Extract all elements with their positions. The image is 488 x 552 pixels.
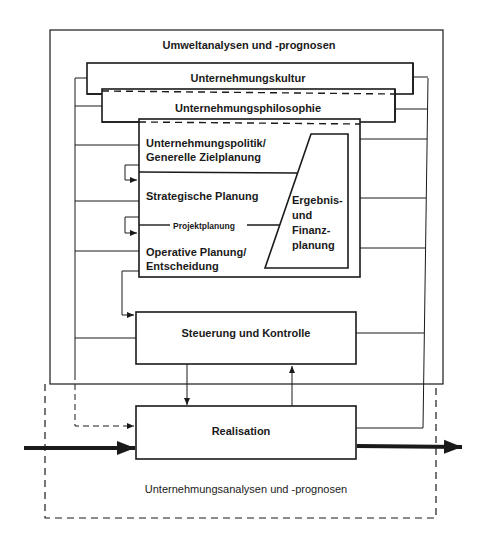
control-label: Steuerung und Kontrolle	[182, 327, 311, 339]
finance-label-3: Finanz-	[292, 224, 331, 236]
operative-label-2: Entscheidung	[146, 260, 219, 272]
right-rail	[423, 78, 428, 428]
policy-divider	[139, 172, 298, 173]
project-label: Projektplanung	[173, 221, 235, 231]
culture-label: Unternehmungskultur	[191, 72, 307, 84]
strategic-label: Strategische Planung	[146, 190, 258, 202]
operative-label-1: Operative Planung/	[146, 246, 246, 258]
output-arrow	[357, 446, 462, 447]
finance-label-2: und	[292, 209, 312, 221]
policy-label-1: Unternehmungspolitik/	[146, 137, 266, 149]
left-rail-dashed	[75, 384, 134, 426]
philosophy-label: Unternehmungsphilosophie	[175, 102, 321, 114]
management-system-diagram: Unternehmungskultur Unternehmungsphiloso…	[0, 0, 488, 552]
finance-label-4: planung	[292, 239, 335, 251]
environment-label: Umweltanalysen und -prognosen	[163, 39, 336, 51]
enterprise-label: Unternehmungsanalysen und -prognosen	[145, 483, 347, 495]
policy-label-2: Generelle Zielplanung	[146, 151, 261, 163]
finance-label-1: Ergebnis-	[292, 194, 343, 206]
realization-label: Realisation	[212, 425, 271, 437]
